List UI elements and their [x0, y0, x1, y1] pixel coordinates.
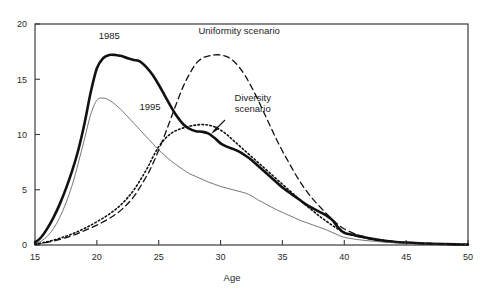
series-annotation: 1995	[139, 101, 160, 112]
x-tick-label: 30	[216, 252, 226, 262]
y-tick-label: 10	[17, 130, 27, 140]
x-tick-label: 20	[92, 252, 102, 262]
svg-text:scenario: scenario	[235, 103, 271, 114]
y-axis: 05101520	[17, 19, 40, 250]
chart-figure: 05101520 1520253035404550 19851995Unifor…	[0, 0, 491, 299]
y-tick-label: 0	[22, 240, 27, 250]
plot-frame	[35, 24, 468, 245]
x-tick-label: 35	[277, 252, 287, 262]
data-series-group	[35, 55, 468, 245]
series-line	[35, 55, 468, 245]
series-annotation: 1985	[99, 30, 120, 41]
svg-text:Diversity: Diversity	[235, 92, 272, 103]
series-line	[35, 125, 468, 245]
x-tick-label: 15	[30, 252, 40, 262]
series-annotation: Diversityscenario	[235, 92, 272, 114]
chart-canvas: 05101520 1520253035404550 19851995Unifor…	[0, 0, 491, 299]
x-tick-label: 50	[463, 252, 473, 262]
series-annotation: Uniformity scenario	[198, 25, 279, 36]
x-tick-label: 25	[154, 252, 164, 262]
x-tick-label: 40	[339, 252, 349, 262]
y-tick-label: 15	[17, 75, 27, 85]
y-tick-label: 20	[17, 19, 27, 29]
x-axis-title: Age	[224, 272, 241, 283]
series-line	[35, 98, 468, 245]
x-tick-label: 45	[401, 252, 411, 262]
series-line	[35, 55, 468, 245]
annotation-group: 19851995Uniformity scenarioDiversityscen…	[99, 25, 280, 114]
y-tick-label: 5	[22, 185, 27, 195]
